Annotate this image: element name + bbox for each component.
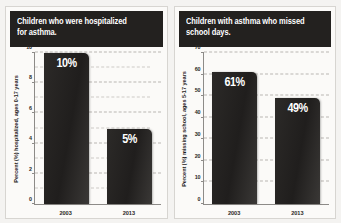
bar-slot: 61% xyxy=(212,53,257,204)
bar-value-label: 10% xyxy=(46,56,87,70)
x-axis: 2003 2013 xyxy=(175,207,336,218)
bar-value-label: 49% xyxy=(277,101,318,115)
x-axis-tick-labels: 2003 2013 xyxy=(34,207,161,216)
y-axis-label: Percent (%) missing school, ages 5-17 ye… xyxy=(179,53,190,205)
y-axis-label-text: Percent (%) hospitalized, ages 0-17 year… xyxy=(13,75,19,182)
plot-area: Percent (%) missing school, ages 5-17 ye… xyxy=(175,47,336,207)
y-tick-label: 50 xyxy=(195,87,201,93)
y-tick-label: 40 xyxy=(195,109,201,115)
chart-title: Children with asthma who missed school d… xyxy=(186,16,314,38)
chart-title: Children who were hospitalized for asthm… xyxy=(17,16,145,38)
bar-2013[interactable]: 49% xyxy=(275,98,320,204)
axes: 10% 5% xyxy=(34,53,161,205)
bar-slot: 5% xyxy=(107,53,152,204)
y-tick-label: 70 xyxy=(195,44,201,50)
chart-page: Children who were hospitalized for asthm… xyxy=(0,0,341,223)
bar-value-label: 61% xyxy=(215,75,256,89)
y-tick-label: 8 xyxy=(29,74,32,80)
chart-panel-missed-school: Children with asthma who missed school d… xyxy=(174,6,337,219)
x-axis-tick-labels: 2003 2013 xyxy=(203,207,330,216)
bar-2003[interactable]: 10% xyxy=(44,53,89,204)
x-tick-label: 2013 xyxy=(275,210,321,216)
y-tick-label: 4 xyxy=(29,135,32,141)
x-tick-label: 2013 xyxy=(106,210,152,216)
y-tick-label: 60 xyxy=(195,66,201,72)
chart-panel-hospitalized: Children who were hospitalized for asthm… xyxy=(5,6,168,219)
y-tick-label: 30 xyxy=(195,131,201,137)
x-tick-label: 2003 xyxy=(211,210,257,216)
y-axis-label-text: Percent (%) missing school, ages 5-17 ye… xyxy=(181,71,187,187)
bar-series: 61% 49% xyxy=(204,53,330,204)
bar-2003[interactable]: 61% xyxy=(212,72,257,204)
y-tick-label: 6 xyxy=(29,105,32,111)
chart-title-bar: Children with asthma who missed school d… xyxy=(179,11,332,47)
bar-slot: 10% xyxy=(44,53,89,204)
y-axis-label: Percent (%) hospitalized, ages 0-17 year… xyxy=(10,53,21,205)
x-axis: 2003 2013 xyxy=(6,207,167,218)
bar-slot: 49% xyxy=(275,53,320,204)
y-tick-label: 0 xyxy=(29,196,32,202)
plot-area: Percent (%) hospitalized, ages 0-17 year… xyxy=(6,47,167,207)
bar-series: 10% 5% xyxy=(35,53,161,204)
y-axis-tick-labels: 10 8 6 4 2 0 xyxy=(21,53,34,205)
y-tick-label: 0 xyxy=(198,196,201,202)
bar-value-label: 5% xyxy=(109,132,150,146)
y-tick-label: 20 xyxy=(195,153,201,159)
x-tick-label: 2003 xyxy=(43,210,89,216)
bar-2013[interactable]: 5% xyxy=(107,129,152,205)
y-tick-label: 10 xyxy=(195,174,201,180)
y-tick-label: 2 xyxy=(29,166,32,172)
axes: 61% 49% xyxy=(203,53,330,205)
y-tick-label: 10 xyxy=(26,44,32,50)
chart-title-bar: Children who were hospitalized for asthm… xyxy=(10,11,163,47)
